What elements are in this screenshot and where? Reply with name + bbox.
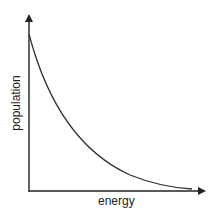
- diagram-canvas: energy population: [0, 0, 217, 220]
- x-axis-label: energy: [98, 194, 135, 208]
- y-axis-label: population: [9, 73, 23, 133]
- decay-curve: [29, 34, 192, 189]
- plot-svg: [0, 0, 217, 220]
